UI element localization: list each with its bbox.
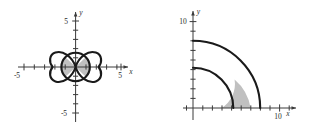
left-plot-svg: -5 5 x 5 -5 y: [0, 0, 156, 134]
figure-container: -5 5 x 5 -5 y: [0, 0, 312, 134]
left-y-pos-label: 5: [64, 17, 68, 26]
right-large-arc-curve: [193, 41, 260, 108]
right-x-axis-label: x: [285, 109, 290, 118]
right-x-arrow: [292, 106, 297, 110]
left-y-arrow: [74, 12, 78, 17]
left-x-arrow: [124, 65, 129, 69]
right-y-pos-label: 10: [179, 17, 187, 26]
left-y-axis-label: y: [78, 8, 83, 17]
left-x-neg-label: -5: [14, 71, 20, 80]
chart-panel-left: -5 5 x 5 -5 y: [0, 0, 156, 134]
left-x-pos-label: 5: [118, 71, 122, 80]
left-y-neg-label: -5: [61, 109, 67, 118]
left-x-axis-label: x: [128, 67, 133, 76]
right-y-arrow: [191, 11, 195, 16]
right-y-axis-label: y: [196, 7, 201, 16]
right-plot-svg: 10 y 10 x: [156, 0, 312, 134]
chart-panel-right: 10 y 10 x: [156, 0, 312, 134]
right-x-pos-label: 10: [274, 112, 282, 121]
right-small-arc-curve: [193, 68, 233, 108]
